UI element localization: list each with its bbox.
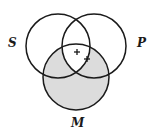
label-s: S bbox=[8, 37, 17, 49]
label-m: M bbox=[71, 117, 84, 129]
venn-diagram: S P M bbox=[0, 0, 150, 134]
label-p: P bbox=[137, 37, 146, 49]
venn-svg bbox=[0, 0, 150, 134]
